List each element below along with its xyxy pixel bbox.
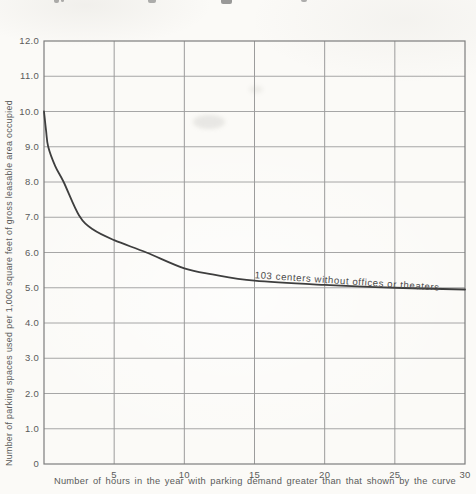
y-tick-label: 11.0 (20, 70, 39, 81)
y-tick-label: 8.0 (25, 176, 39, 187)
y-tick-label: 5.0 (25, 282, 39, 293)
y-tick-label: 0 (33, 458, 39, 469)
x-axis-title: Number of hours in the year with parking… (44, 476, 466, 486)
y-tick-label: 6.0 (25, 247, 39, 258)
chart-canvas: 12.011.010.09.08.07.06.05.04.03.02.01.00… (0, 0, 476, 494)
y-axis-title: Number of parking spaces used per 1,000 … (4, 100, 14, 466)
y-tick-label: 7.0 (25, 211, 39, 222)
y-tick-label: 10.0 (19, 106, 39, 117)
y-tick-label: 4.0 (25, 317, 39, 328)
parking-demand-figure: 12.011.010.09.08.07.06.05.04.03.02.01.00… (0, 0, 476, 494)
curve-label: 103 centers without offices or theaters (254, 269, 440, 292)
y-tick-label: 3.0 (25, 352, 39, 363)
y-tick-label: 2.0 (25, 388, 39, 399)
y-tick-label: 12.0 (19, 35, 39, 46)
y-tick-label: 1.0 (25, 423, 39, 434)
y-tick-label: 9.0 (25, 141, 39, 152)
